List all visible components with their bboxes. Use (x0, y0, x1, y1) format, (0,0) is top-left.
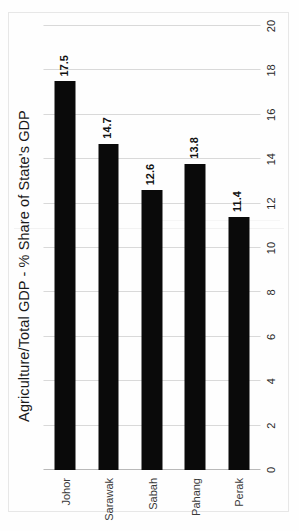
value-tick-label: 8 (264, 289, 276, 295)
bar-value-label: 13.8 (187, 137, 199, 158)
category-tick-label: Sarawak (102, 478, 114, 521)
bar-chart: Agriculture/Total GDP - % Share of State… (9, 16, 290, 516)
value-tick-label: 10 (264, 241, 276, 253)
bar-value-label: 12.6 (143, 163, 155, 184)
bar-value-label: 17.5 (57, 55, 69, 76)
rotated-chart-wrapper: Agriculture/Total GDP - % Share of State… (9, 16, 290, 516)
category-tick-label: Sabah (146, 478, 158, 510)
chart-page: Agriculture/Total GDP - % Share of State… (0, 0, 299, 531)
bar-group: 12.6 (130, 26, 173, 470)
value-tick-label: 0 (264, 466, 276, 472)
bar[interactable] (141, 190, 162, 470)
value-tick-label: 18 (264, 64, 276, 76)
value-tick-label: 16 (264, 108, 276, 120)
value-tick-label: 2 (264, 422, 276, 428)
bar-group: 11.4 (217, 26, 260, 470)
chart-title: Agriculture/Total GDP - % Share of State… (15, 16, 31, 516)
bar-group: 13.8 (173, 26, 216, 470)
bar[interactable] (98, 143, 119, 469)
category-tick-label: Johor (59, 478, 71, 506)
bar-value-label: 11.4 (230, 191, 242, 212)
bars-container: 17.514.712.613.811.4 (43, 26, 260, 470)
bar-value-label: 14.7 (100, 117, 112, 138)
category-tick-label: Pahang (189, 478, 201, 516)
category-axis: 02468101214161820 (262, 26, 284, 470)
value-tick-label: 20 (264, 19, 276, 31)
plot-area: 17.514.712.613.811.4 (43, 26, 260, 470)
value-axis: JohorSarawakSabahPahangPerak (43, 472, 260, 516)
category-tick-label: Perak (232, 478, 244, 507)
value-tick-label: 6 (264, 333, 276, 339)
value-tick-label: 14 (264, 153, 276, 165)
value-tick-label: 12 (264, 197, 276, 209)
value-tick-label: 4 (264, 378, 276, 384)
bar[interactable] (54, 81, 75, 470)
bar-group: 14.7 (86, 26, 129, 470)
bar[interactable] (184, 163, 205, 469)
bar[interactable] (228, 216, 249, 469)
bar-group: 17.5 (43, 26, 86, 470)
